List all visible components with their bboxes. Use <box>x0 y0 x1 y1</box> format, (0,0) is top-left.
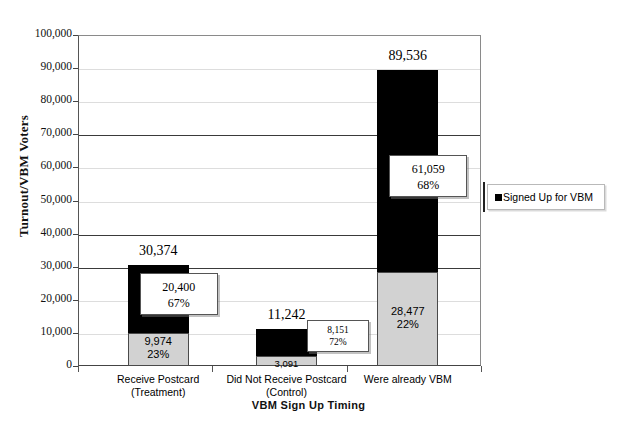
y-tick-mark-50000 <box>73 201 78 202</box>
chart-container: Turnout/VBM Voters 100,00090,00080,00070… <box>0 0 617 436</box>
bar-base-label-2: 28,47722% <box>377 305 438 331</box>
y-tick-mark-70000 <box>73 134 78 135</box>
bar-signed-up-pct-2: 68% <box>390 177 466 193</box>
y-tick-mark-90000 <box>73 68 78 69</box>
chart-legend: Signed Up for VBM <box>487 184 605 210</box>
x-category-line2-1: (Control) <box>212 386 362 399</box>
y-tick-label-30000: 30,000 <box>12 259 72 271</box>
y-tick-mark-100000 <box>73 35 78 36</box>
bar-signed-up-callout-2: 61,05968% <box>389 155 467 197</box>
x-tick-mark-3 <box>481 366 482 372</box>
bar-signed-up-callout-0: 20,40067% <box>140 273 218 315</box>
y-tick-label-60000: 60,000 <box>12 159 72 171</box>
y-tick-mark-10000 <box>73 333 78 334</box>
x-category-label-2: Were already VBM <box>333 373 483 386</box>
y-tick-label-10000: 10,000 <box>12 325 72 337</box>
x-tick-mark-2 <box>347 366 348 372</box>
legend-accent-bar <box>483 182 485 212</box>
y-tick-mark-80000 <box>73 101 78 102</box>
bar-signed-up-value-1: 8,151 <box>308 324 368 336</box>
bar-signed-up-callout-1: 8,15172% <box>307 320 369 352</box>
y-tick-mark-30000 <box>73 267 78 268</box>
x-category-line1-2: Were already VBM <box>333 373 483 386</box>
y-tick-label-100000: 100,000 <box>12 27 72 39</box>
y-tick-label-50000: 50,000 <box>12 193 72 205</box>
bar-signed-up-pct-1: 72% <box>308 336 368 348</box>
y-tick-mark-20000 <box>73 300 78 301</box>
bar-total-label-1: 11,242 <box>237 307 337 323</box>
bar-base-pct-2: 22% <box>377 318 438 331</box>
y-tick-label-90000: 90,000 <box>12 60 72 72</box>
y-tick-label-20000: 20,000 <box>12 292 72 304</box>
bar-signed-up-pct-0: 67% <box>141 295 217 311</box>
legend-label-signed-up: Signed Up for VBM <box>503 191 593 203</box>
x-tick-mark-0 <box>78 366 79 372</box>
bar-total-label-2: 89,536 <box>358 48 458 64</box>
y-tick-mark-40000 <box>73 234 78 235</box>
bar-base-label-1: 3,091 <box>256 357 317 370</box>
y-tick-label-70000: 70,000 <box>12 126 72 138</box>
bar-base-pct-0: 23% <box>128 348 189 361</box>
y-tick-mark-60000 <box>73 167 78 168</box>
bar-base-label-0: 9,97423% <box>128 335 189 361</box>
legend-swatch-signed-up <box>495 194 502 201</box>
x-tick-mark-1 <box>212 366 213 372</box>
bar-base-value-1: 3,091 <box>256 357 317 370</box>
bar-total-label-0: 30,374 <box>108 243 208 259</box>
y-tick-label-0: 0 <box>12 358 72 370</box>
x-axis-title: VBM Sign Up Timing <box>0 399 617 411</box>
bar-base-value-2: 28,477 <box>377 305 438 318</box>
bar-base-value-0: 9,974 <box>128 335 189 348</box>
y-tick-label-80000: 80,000 <box>12 93 72 105</box>
bar-signed-up-value-2: 61,059 <box>390 161 466 177</box>
bar-signed-up-value-0: 20,400 <box>141 279 217 295</box>
y-tick-label-40000: 40,000 <box>12 226 72 238</box>
